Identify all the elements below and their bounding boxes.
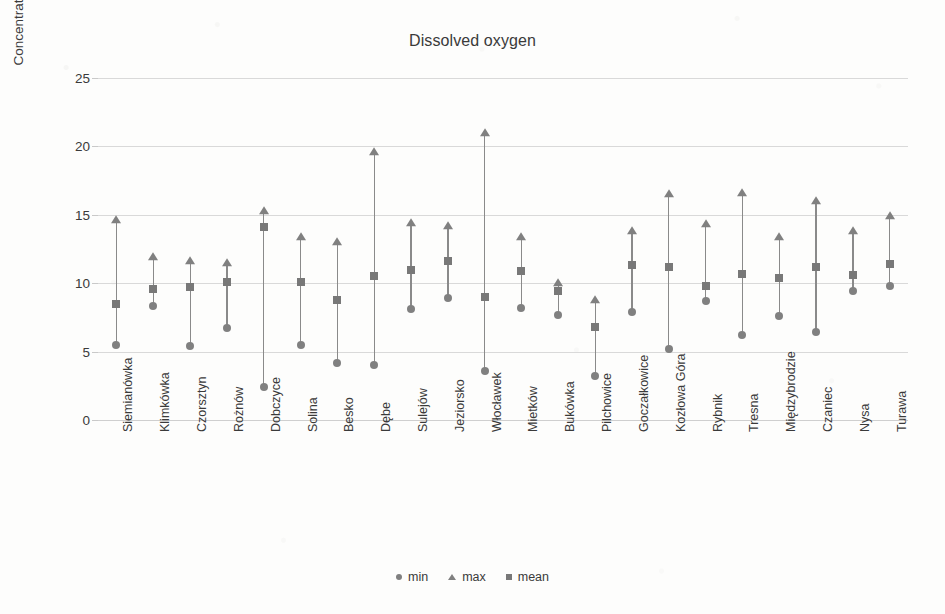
legend-item-label: mean xyxy=(518,570,549,584)
mean-marker xyxy=(738,270,746,278)
min-marker xyxy=(886,282,894,290)
x-axis-category-label: Międzybrodzie xyxy=(784,351,798,432)
max-marker xyxy=(737,188,747,196)
x-axis-category-label: Solina xyxy=(306,397,320,432)
min-marker xyxy=(517,304,525,312)
range-stem xyxy=(374,152,375,365)
min-marker xyxy=(812,328,820,336)
range-stem xyxy=(889,216,890,286)
gridline xyxy=(98,78,908,79)
y-axis-tick-mark xyxy=(92,283,98,284)
mean-marker xyxy=(886,260,894,268)
min-marker xyxy=(223,324,231,332)
mean-glyph-icon xyxy=(506,574,512,580)
range-stem xyxy=(300,237,301,345)
range-stem xyxy=(595,300,596,377)
x-axis-category-label: Włocławek xyxy=(490,372,504,432)
x-axis-category-label: Sulejów xyxy=(416,388,430,432)
dissolved-oxygen-chart: Dissolved oxygen Concentration [mg O2/L]… xyxy=(0,0,945,614)
y-axis-title-prefix: Concentration [mg O xyxy=(11,0,26,66)
x-axis-category-label: Mietków xyxy=(526,386,540,432)
max-marker xyxy=(111,215,121,223)
legend-item-label: min xyxy=(408,570,428,584)
range-stem xyxy=(153,257,154,306)
mean-marker xyxy=(223,278,231,286)
y-axis-tick-label: 10 xyxy=(54,276,90,291)
y-axis-tick-label: 15 xyxy=(54,207,90,222)
range-stem xyxy=(226,263,227,329)
range-stem xyxy=(742,193,743,335)
y-axis-tick-mark xyxy=(92,146,98,147)
max-marker xyxy=(627,226,637,234)
min-marker xyxy=(186,342,194,350)
x-axis-category-label: Rybnik xyxy=(711,394,725,432)
mean-marker xyxy=(112,300,120,308)
mean-marker xyxy=(186,283,194,291)
chart-title: Dissolved oxygen xyxy=(0,32,945,50)
min-marker xyxy=(849,287,857,295)
mean-marker xyxy=(775,274,783,282)
max-marker xyxy=(296,232,306,240)
mean-marker xyxy=(481,293,489,301)
x-axis-category-label: Czaniec xyxy=(821,387,835,432)
mean-marker xyxy=(849,271,857,279)
max-marker xyxy=(885,211,895,219)
range-stem xyxy=(190,261,191,346)
max-marker xyxy=(590,295,600,303)
gridline xyxy=(98,283,908,284)
x-axis-category-label: Dobczyce xyxy=(269,377,283,432)
y-axis-tick-label: 20 xyxy=(54,139,90,154)
mean-marker xyxy=(370,272,378,280)
x-axis-category-label: Bukówka xyxy=(563,381,577,432)
max-marker xyxy=(701,220,711,228)
x-axis-category-label: Pilchowice xyxy=(600,373,614,432)
mean-marker xyxy=(554,287,562,295)
max-marker xyxy=(664,189,674,197)
max-marker xyxy=(516,232,526,240)
mean-marker xyxy=(702,282,710,290)
x-axis-category-label: Czorsztyn xyxy=(195,376,209,432)
max-marker xyxy=(406,218,416,226)
min-marker xyxy=(149,302,157,310)
y-axis-tick-mark xyxy=(92,215,98,216)
min-marker xyxy=(702,297,710,305)
x-axis-category-label: Tresna xyxy=(747,394,761,432)
y-axis-tick-label: 0 xyxy=(54,413,90,428)
max-marker xyxy=(848,226,858,234)
min-marker xyxy=(444,294,452,302)
min-glyph-icon xyxy=(396,574,402,580)
y-axis-tick-mark xyxy=(92,352,98,353)
min-marker xyxy=(297,341,305,349)
legend-item-mean[interactable]: mean xyxy=(506,570,549,584)
range-stem xyxy=(484,133,485,371)
min-marker xyxy=(554,311,562,319)
range-stem xyxy=(116,220,117,344)
min-marker xyxy=(738,331,746,339)
mean-marker xyxy=(149,285,157,293)
x-axis-category-label: Kozłowa Góra xyxy=(674,353,688,432)
mean-marker xyxy=(444,257,452,265)
max-glyph-icon xyxy=(448,574,456,580)
gridline xyxy=(98,146,908,147)
mean-marker xyxy=(591,323,599,331)
min-marker xyxy=(591,372,599,380)
legend-item-max[interactable]: max xyxy=(448,570,486,584)
min-marker xyxy=(370,361,378,369)
y-axis-tick-label: 25 xyxy=(54,71,90,86)
mean-marker xyxy=(297,278,305,286)
range-stem xyxy=(263,211,264,387)
y-axis-tick-mark xyxy=(92,420,98,421)
mean-marker xyxy=(628,261,636,269)
chart-legend: minmaxmean xyxy=(0,570,945,584)
mean-marker xyxy=(665,263,673,271)
max-marker xyxy=(480,128,490,136)
y-axis-title: Concentration [mg O2/L] xyxy=(11,0,29,118)
max-marker xyxy=(369,147,379,155)
min-marker xyxy=(333,359,341,367)
legend-item-min[interactable]: min xyxy=(396,570,428,584)
y-axis-tick-mark xyxy=(92,78,98,79)
min-marker xyxy=(628,308,636,316)
min-marker xyxy=(665,345,673,353)
y-axis-tick-label: 5 xyxy=(54,344,90,359)
x-axis-category-label: Klimkówka xyxy=(158,372,172,432)
